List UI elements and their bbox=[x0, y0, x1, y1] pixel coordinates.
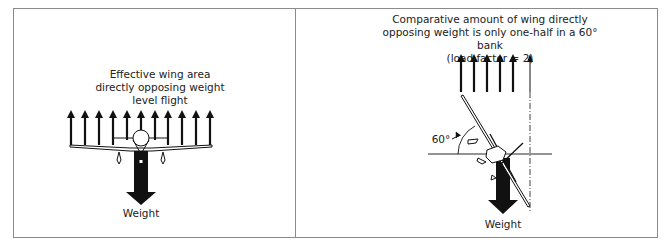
left-weight-arrow bbox=[126, 151, 156, 205]
angle-label: 60° bbox=[430, 133, 452, 146]
diagram-graphics bbox=[0, 0, 668, 246]
right-lift-arrows bbox=[457, 54, 517, 92]
right-weight-label: Weight bbox=[473, 218, 533, 231]
left-weight-label: Weight bbox=[111, 207, 171, 220]
right-lift-arrow-thin bbox=[527, 54, 533, 92]
banked-airplane bbox=[461, 95, 530, 207]
